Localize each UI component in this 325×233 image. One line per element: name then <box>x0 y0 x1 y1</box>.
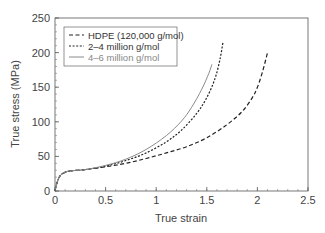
x-tick-label: 0 <box>52 194 58 206</box>
legend: HDPE (120,000 g/mol) 2–4 million g/mol 4… <box>64 27 184 66</box>
legend-label-4-6m: 4–6 million g/mol <box>88 52 159 63</box>
x-axis-label: True strain <box>155 212 207 224</box>
y-tick-label: 50 <box>38 150 50 162</box>
series-line-0 <box>55 53 268 191</box>
x-tick-label: 2.5 <box>300 194 315 206</box>
x-tick-label: 1.5 <box>199 194 214 206</box>
x-tick-label: 0.5 <box>98 194 113 206</box>
y-tick-label: 250 <box>32 12 50 24</box>
y-axis-label: True stress (MPa) <box>9 60 21 148</box>
stress-strain-chart: 00.511.522.5050100150200250 True strain … <box>0 0 325 233</box>
x-tick-label: 2 <box>254 194 260 206</box>
legend-label-hdpe: HDPE (120,000 g/mol) <box>88 30 184 41</box>
y-tick-label: 150 <box>32 81 50 93</box>
legend-label-2-4m: 2–4 million g/mol <box>88 41 159 52</box>
x-tick-label: 1 <box>153 194 159 206</box>
series-line-2 <box>55 64 212 191</box>
y-tick-label: 100 <box>32 116 50 128</box>
y-tick-label: 200 <box>32 47 50 59</box>
y-tick-label: 0 <box>44 185 50 197</box>
